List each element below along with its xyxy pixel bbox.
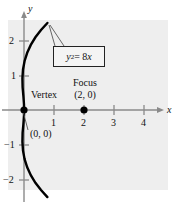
focus-point <box>80 106 87 113</box>
x-tick-label-4: 4 <box>141 118 146 128</box>
focus-coordinate-label: (2, 0) <box>66 90 104 101</box>
y-tick-label-neg2: −2 <box>3 175 14 185</box>
equation-leader-lines <box>49 25 64 46</box>
equation-variable-y: y <box>66 51 70 62</box>
equation-text: y2 = 8x <box>54 47 104 66</box>
equation-callout-box: y2 = 8x <box>53 46 105 67</box>
vertex-coordinate-label: (0, 0) <box>30 129 52 140</box>
x-tick-label-1: 1 <box>51 118 56 128</box>
x-tick-label-2: 2 <box>81 118 86 128</box>
y-tick-label-1: 1 <box>11 71 16 81</box>
vertex-label: Vertex <box>31 90 57 101</box>
vertex-point <box>20 106 27 113</box>
focus-label: Focus <box>66 78 104 89</box>
equation-operator: = 8 <box>74 51 87 62</box>
equation-variable-x: x <box>87 51 91 62</box>
parabola-figure: y2 = 8x 2 1 −1 −2 1 2 3 4 y x Vertex (0,… <box>0 0 177 202</box>
x-tick-label-3: 3 <box>111 118 116 128</box>
y-axis-label: y <box>28 4 32 14</box>
graph-canvas <box>0 0 177 202</box>
y-tick-label-neg1: −1 <box>4 140 15 150</box>
y-tick-label-2: 2 <box>9 36 14 46</box>
x-axis-label: x <box>167 105 171 115</box>
